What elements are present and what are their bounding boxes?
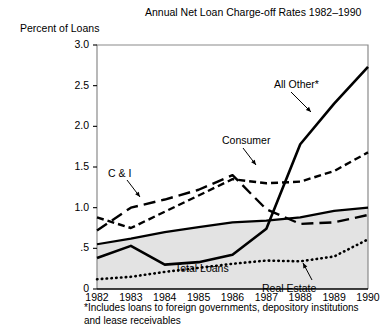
series-label-all-other: All Other* — [274, 78, 319, 90]
series-label-real-estate: Real Estate — [262, 282, 316, 294]
plot-canvas — [0, 0, 391, 333]
y-tick-label: 1.5 — [63, 160, 89, 172]
series-label-c-and-i: C & I — [108, 167, 131, 179]
y-tick-label: .5 — [63, 241, 89, 253]
chart-figure: Annual Net Loan Charge-off Rates 1982–19… — [0, 0, 391, 333]
chart-footnote: *Includes loans to foreign governments, … — [84, 302, 359, 327]
y-tick-label: 2.5 — [63, 79, 89, 91]
y-tick-label: 1.0 — [63, 201, 89, 213]
series-label-total-loans: Total Loans — [175, 262, 229, 274]
y-tick-label: 2.0 — [63, 119, 89, 131]
series-label-consumer: Consumer — [222, 134, 270, 146]
y-tick-label: 3.0 — [63, 38, 89, 50]
